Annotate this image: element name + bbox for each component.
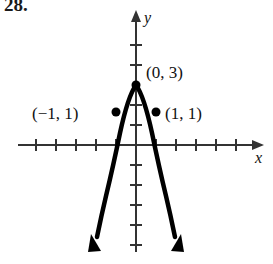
figure-container: 28. [0, 0, 273, 264]
point-vertex-marker [132, 81, 141, 90]
point-label-vertex: (0, 3) [146, 63, 183, 82]
parabola-graph: (0, 3) (−1, 1) (1, 1) x y [0, 0, 273, 264]
point-label-left: (−1, 1) [32, 104, 78, 123]
y-axis-arrowhead [131, 10, 141, 22]
point-left-marker [112, 108, 121, 117]
y-axis-label: y [142, 9, 152, 27]
point-label-right: (1, 1) [165, 104, 202, 123]
x-axis-label: x [254, 149, 262, 166]
point-right-marker [152, 108, 161, 117]
